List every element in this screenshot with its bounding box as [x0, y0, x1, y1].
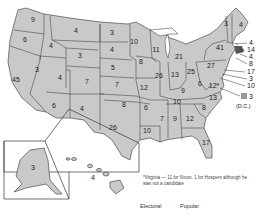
svg-text:4: 4 [110, 46, 114, 53]
svg-text:7: 7 [85, 78, 89, 85]
alaska-shape [14, 148, 62, 194]
svg-text:3: 3 [110, 29, 114, 36]
svg-text:13: 13 [171, 71, 179, 78]
svg-text:9: 9 [31, 16, 35, 23]
svg-text:6: 6 [52, 102, 56, 109]
dc-swatch [241, 93, 247, 99]
svg-text:4: 4 [74, 27, 78, 34]
svg-text:10: 10 [173, 98, 181, 105]
svg-text:13: 13 [209, 94, 217, 101]
svg-text:8: 8 [122, 101, 126, 108]
svg-text:3: 3 [35, 66, 39, 73]
svg-text:6: 6 [23, 36, 27, 43]
svg-text:8: 8 [202, 104, 206, 111]
svg-text:17: 17 [247, 68, 255, 75]
svg-text:4: 4 [80, 105, 84, 112]
column-header-popular: Popular [180, 203, 199, 209]
svg-text:26: 26 [109, 124, 117, 131]
svg-text:25: 25 [187, 68, 195, 75]
svg-text:45: 45 [12, 76, 20, 83]
svg-text:7: 7 [115, 81, 119, 88]
svg-text:3: 3 [224, 20, 228, 27]
svg-text:4: 4 [91, 174, 95, 181]
svg-text:3: 3 [249, 93, 253, 100]
svg-text:12: 12 [140, 84, 148, 91]
svg-text:12: 12 [186, 115, 194, 122]
svg-text:27: 27 [207, 62, 215, 69]
svg-text:41: 41 [216, 44, 224, 51]
svg-text:3: 3 [31, 164, 35, 171]
svg-text:12*: 12* [209, 82, 220, 89]
hawaii-islands [66, 158, 124, 195]
svg-text:9: 9 [173, 115, 177, 122]
svg-text:26: 26 [155, 72, 163, 79]
svg-text:4: 4 [249, 53, 253, 60]
svg-text:4: 4 [239, 21, 243, 28]
svg-text:8: 8 [249, 60, 253, 67]
svg-text:9: 9 [181, 87, 185, 94]
virginia-footnote: *Virginia — 11 for Nixon, 1 for Hospers … [143, 175, 255, 187]
svg-text:8: 8 [139, 58, 143, 65]
svg-text:4: 4 [249, 39, 253, 46]
column-header-electoral: Electoral [140, 203, 161, 209]
svg-text:5: 5 [111, 64, 115, 71]
svg-text:(D.C.): (D.C.) [236, 103, 251, 109]
svg-text:4: 4 [58, 74, 62, 81]
svg-text:3: 3 [78, 52, 82, 59]
svg-text:3: 3 [249, 75, 253, 82]
svg-text:6: 6 [144, 104, 148, 111]
svg-text:21: 21 [175, 53, 183, 60]
svg-text:10: 10 [130, 38, 138, 45]
svg-text:14: 14 [247, 46, 255, 53]
svg-text:10: 10 [143, 127, 151, 134]
svg-text:6: 6 [198, 80, 202, 87]
svg-text:11: 11 [152, 46, 159, 53]
svg-text:7: 7 [160, 115, 164, 122]
dc-indicator: 3 (D.C.) [220, 88, 253, 109]
svg-text:10: 10 [247, 82, 255, 89]
svg-text:4: 4 [49, 42, 53, 49]
svg-text:17: 17 [202, 139, 210, 146]
